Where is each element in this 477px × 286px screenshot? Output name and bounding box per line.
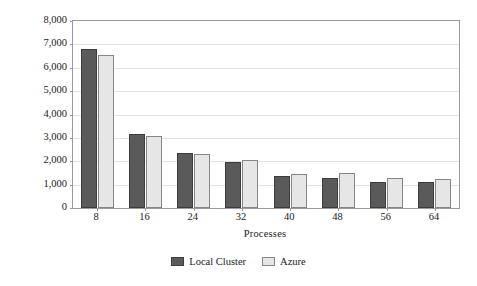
x-tick-label: 32 — [221, 210, 261, 223]
bar — [322, 178, 338, 208]
bar — [435, 179, 451, 208]
bar — [146, 136, 162, 208]
y-tick-label: 3,000 — [22, 132, 67, 142]
y-axis-tick-labels: 01,0002,0003,0004,0005,0006,0007,0008,00… — [22, 20, 67, 207]
y-tick-mark — [70, 115, 73, 116]
bar — [98, 55, 114, 208]
legend-label: Local Cluster — [189, 256, 246, 267]
plot-area — [72, 20, 460, 209]
bar — [177, 153, 193, 208]
y-tick-mark — [70, 208, 73, 209]
bar — [274, 176, 290, 208]
bar — [387, 178, 403, 208]
x-tick-label: 64 — [414, 210, 454, 223]
legend-item: Azure — [262, 256, 306, 267]
y-tick-mark — [70, 161, 73, 162]
x-tick-label: 56 — [366, 210, 406, 223]
bar — [418, 182, 434, 208]
bar — [242, 160, 258, 208]
y-tick-label: 8,000 — [22, 15, 67, 25]
y-tick-mark — [70, 185, 73, 186]
legend-item: Local Cluster — [171, 256, 246, 267]
legend-swatch — [262, 257, 275, 266]
bar-series-container — [73, 21, 459, 208]
x-tick-label: 24 — [173, 210, 213, 223]
legend-swatch — [171, 257, 184, 266]
bar — [225, 162, 241, 208]
y-tick-label: 1,000 — [22, 179, 67, 189]
chart-legend: Local ClusterAzure — [0, 256, 477, 267]
bar — [129, 134, 145, 208]
bar — [339, 173, 355, 208]
bar-chart-figure: Execution time [s] 01,0002,0003,0004,000… — [0, 0, 477, 286]
x-tick-label: 16 — [124, 210, 164, 223]
legend-label: Azure — [280, 256, 306, 267]
x-axis-title: Processes — [72, 228, 458, 239]
y-tick-label: 2,000 — [22, 155, 67, 165]
x-tick-label: 48 — [317, 210, 357, 223]
bar — [370, 182, 386, 208]
x-tick-label: 40 — [269, 210, 309, 223]
y-tick-label: 5,000 — [22, 85, 67, 95]
y-tick-mark — [70, 44, 73, 45]
y-tick-label: 6,000 — [22, 62, 67, 72]
y-tick-mark — [70, 68, 73, 69]
y-tick-label: 7,000 — [22, 38, 67, 48]
y-tick-mark — [70, 91, 73, 92]
y-tick-label: 4,000 — [22, 109, 67, 119]
bar — [81, 49, 97, 208]
y-tick-mark — [70, 138, 73, 139]
y-axis-title: Execution time [s] — [0, 0, 14, 48]
bar — [291, 174, 307, 208]
x-axis-tick-labels: 816243240485664 — [72, 210, 458, 224]
y-tick-mark — [70, 21, 73, 22]
x-tick-label: 8 — [76, 210, 116, 223]
bar — [194, 154, 210, 208]
y-tick-label: 0 — [22, 202, 67, 212]
